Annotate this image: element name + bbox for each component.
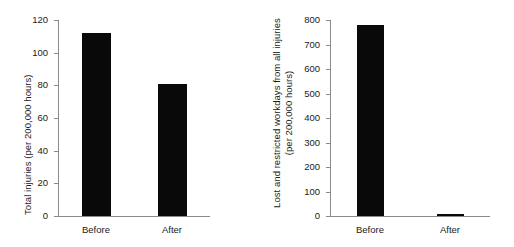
x-category-label-after: After: [415, 224, 485, 235]
y-tick-0: [326, 216, 330, 217]
plot-area-right: 0100200300400500600700800BeforeAfter: [330, 20, 490, 216]
y-tick-label-0: 0: [18, 210, 48, 221]
y-tick-label-700: 700: [290, 39, 320, 50]
y-tick-0: [54, 216, 58, 217]
bar-before: [357, 25, 384, 216]
y-tick-400: [326, 118, 330, 119]
x-axis-line-left: [58, 216, 210, 217]
y-tick-100: [326, 192, 330, 193]
chart-panel-lost-workdays: Lost and restricted workdays from all in…: [257, 0, 514, 247]
y-tick-20: [54, 183, 58, 184]
y-tick-40: [54, 151, 58, 152]
y-tick-label-200: 200: [290, 161, 320, 172]
y-tick-label-0: 0: [290, 210, 320, 221]
x-category-label-before: Before: [61, 224, 131, 235]
y-tick-120: [54, 20, 58, 21]
y-tick-600: [326, 69, 330, 70]
y-tick-label-120: 120: [18, 14, 48, 25]
y-axis-line-right: [330, 20, 331, 217]
y-tick-label-40: 40: [18, 145, 48, 156]
bar-after: [158, 84, 187, 216]
y-tick-label-400: 400: [290, 112, 320, 123]
y-tick-700: [326, 45, 330, 46]
y-tick-200: [326, 167, 330, 168]
y-tick-label-600: 600: [290, 63, 320, 74]
y-tick-label-100: 100: [290, 186, 320, 197]
y-tick-500: [326, 94, 330, 95]
chart-panel-total-injuries: Total injuries (per 200,000 hours) 02040…: [0, 0, 257, 247]
y-tick-label-800: 800: [290, 14, 320, 25]
bar-before: [82, 33, 111, 216]
x-axis-line-right: [330, 216, 490, 217]
figure-two-bar-charts: Total injuries (per 200,000 hours) 02040…: [0, 0, 514, 247]
x-category-label-after: After: [137, 224, 207, 235]
y-axis-title-right-line1: Lost and restricted workdays from all in…: [271, 8, 283, 218]
y-axis-line-left: [58, 20, 59, 217]
y-tick-label-300: 300: [290, 137, 320, 148]
x-category-label-before: Before: [335, 224, 405, 235]
y-tick-label-20: 20: [18, 177, 48, 188]
y-tick-label-100: 100: [18, 47, 48, 58]
y-tick-label-80: 80: [18, 79, 48, 90]
y-tick-800: [326, 20, 330, 21]
plot-area-left: 020406080100120BeforeAfter: [58, 20, 210, 216]
y-tick-60: [54, 118, 58, 119]
y-tick-100: [54, 53, 58, 54]
y-tick-label-500: 500: [290, 88, 320, 99]
y-tick-label-60: 60: [18, 112, 48, 123]
y-tick-300: [326, 143, 330, 144]
bar-after: [437, 214, 464, 216]
y-tick-80: [54, 85, 58, 86]
